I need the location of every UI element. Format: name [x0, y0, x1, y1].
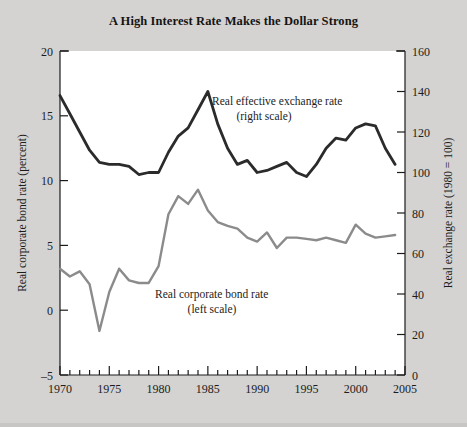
right-tick-label: 100	[412, 166, 430, 180]
chart-figure: A High Interest Rate Makes the Dollar St…	[0, 0, 467, 427]
right-tick-label: 20	[412, 328, 424, 342]
x-tick-label: 1995	[294, 382, 318, 396]
right-tick-label: 0	[412, 369, 418, 383]
right-tick-label: 120	[412, 126, 430, 140]
right-tick-label: 40	[412, 288, 424, 302]
left-tick-label: –5	[40, 369, 53, 383]
left-tick-label: 5	[47, 239, 53, 253]
annotation-exchange-rate-label: Real effective exchange rate	[212, 95, 342, 108]
right-axis-title: Real exchange rate (1980 = 100)	[442, 138, 455, 289]
x-tick-label: 1990	[245, 382, 269, 396]
right-tick-label: 60	[412, 247, 424, 261]
annotation-bond-rate-label: Real corporate bond rate	[155, 288, 268, 301]
annotation-bond-rate-sub: (left scale)	[188, 303, 237, 316]
chart-plot-svg: –505101520 020406080100120140160 1970197…	[0, 0, 467, 427]
x-tick-label: 1975	[97, 382, 121, 396]
x-tick-label: 1970	[48, 382, 72, 396]
left-tick-label: 20	[41, 45, 53, 59]
left-axis-title: Real corporate bond rate (percent)	[16, 134, 29, 292]
x-tick-label: 1980	[147, 382, 171, 396]
left-tick-label: 10	[41, 174, 53, 188]
right-tick-label: 160	[412, 45, 430, 59]
annotation-exchange-rate-sub: (right scale)	[236, 110, 291, 123]
x-tick-label: 2000	[344, 382, 368, 396]
right-axis-tick-labels: 020406080100120140160	[412, 45, 430, 383]
x-tick-label: 1985	[196, 382, 220, 396]
left-tick-label: 0	[47, 304, 53, 318]
right-tick-label: 140	[412, 85, 430, 99]
x-axis-tick-labels: 19701975198019851990199520002005	[48, 382, 417, 396]
left-tick-label: 15	[41, 109, 53, 123]
x-tick-label: 2005	[393, 382, 417, 396]
right-tick-label: 80	[412, 207, 424, 221]
left-axis-tick-labels: –505101520	[40, 45, 53, 383]
